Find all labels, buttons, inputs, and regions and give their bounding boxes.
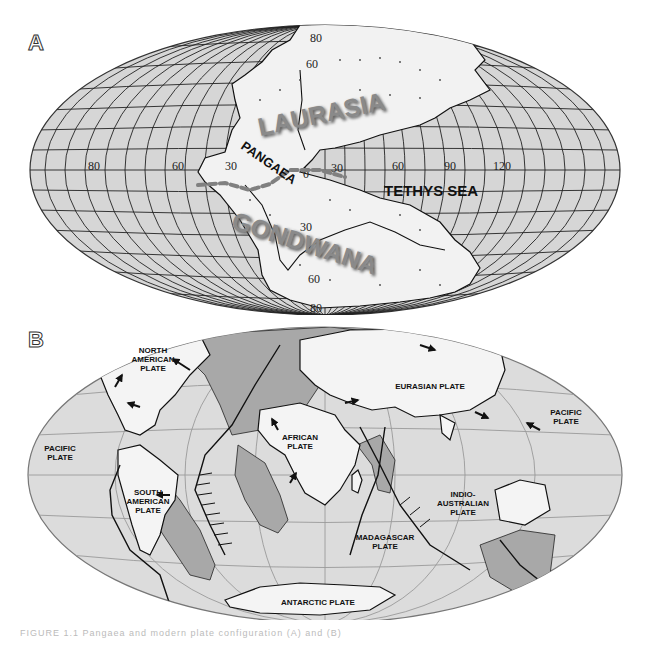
panel-b-modern-plates-map: B bbox=[0, 315, 648, 620]
plate-label-indo-australian-1: INDIO- bbox=[451, 490, 476, 499]
plate-label-indo-australian-3: PLATE bbox=[450, 508, 476, 517]
plate-label-african-2: PLATE bbox=[287, 442, 313, 451]
lon-label-60e: 60 bbox=[392, 159, 404, 173]
panel-a-pangaea-map: A bbox=[0, 0, 648, 315]
panel-letter-b: B bbox=[28, 327, 44, 352]
plate-label-madagascar-1: MADAGASCAR bbox=[356, 533, 415, 542]
panel-letter-a: A bbox=[28, 30, 44, 55]
plate-label-north-american-2: AMERICAN bbox=[131, 355, 174, 364]
plate-label-indo-australian-2: AUSTRALIAN bbox=[437, 499, 489, 508]
plate-label-north-american-1: NORTH bbox=[139, 346, 168, 355]
lon-label-120e: 120 bbox=[493, 159, 511, 173]
plate-label-north-american-3: PLATE bbox=[140, 364, 166, 373]
plate-label-pacific-east-2: PLATE bbox=[553, 417, 579, 426]
plate-label-pacific-east-1: PACIFIC bbox=[550, 408, 582, 417]
plate-label-south-american-3: PLATE bbox=[135, 506, 161, 515]
figure-caption: FIGURE 1.1 Pangaea and modern plate conf… bbox=[20, 628, 628, 642]
lat-label-60n: 60 bbox=[306, 57, 318, 71]
tethys-sea-label: TETHYS SEA bbox=[384, 182, 478, 199]
lon-label-80w: 80 bbox=[88, 159, 100, 173]
lon-label-30w: 30 bbox=[225, 159, 237, 173]
plate-label-madagascar-2: PLATE bbox=[372, 542, 398, 551]
lat-label-60s: 60 bbox=[308, 272, 320, 286]
plate-label-south-american-1: SOUTH bbox=[134, 488, 162, 497]
plate-label-antarctic: ANTARCTIC PLATE bbox=[281, 598, 356, 607]
lon-label-90e: 90 bbox=[444, 159, 456, 173]
plate-label-pacific-west-2: PLATE bbox=[47, 453, 73, 462]
modern-plates-svg: B bbox=[0, 315, 648, 620]
pangaea-map-svg: A bbox=[0, 0, 648, 315]
plate-label-eurasian: EURASIAN PLATE bbox=[395, 382, 465, 391]
plate-label-south-american-2: AMERICAN bbox=[126, 497, 169, 506]
plate-label-african-1: AFRICAN bbox=[282, 433, 318, 442]
plate-label-pacific-west-1: PACIFIC bbox=[44, 444, 76, 453]
lon-label-60w: 60 bbox=[172, 159, 184, 173]
lat-label-80n: 80 bbox=[310, 31, 322, 45]
lat-label-80s: 80 bbox=[310, 301, 322, 315]
